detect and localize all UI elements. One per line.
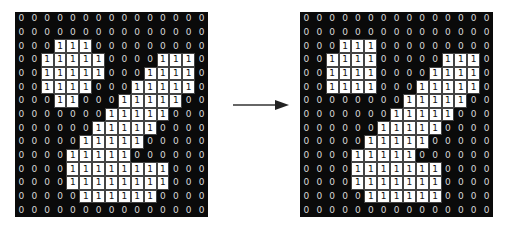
grid-cell: 0 (416, 12, 429, 26)
grid-cell: 0 (182, 108, 195, 122)
grid-cell: 0 (28, 121, 41, 135)
grid-cell: 0 (351, 121, 364, 135)
grid-cell: 0 (54, 12, 67, 26)
grid-cell: 0 (467, 12, 480, 26)
grid-cell: 0 (377, 39, 390, 53)
grid-cell: 1 (66, 39, 79, 53)
grid-cell: 0 (429, 149, 442, 163)
grid-cell: 0 (105, 203, 118, 217)
grid-cell: 0 (326, 108, 339, 122)
grid-cell: 1 (364, 67, 377, 81)
grid-cell: 1 (429, 94, 442, 108)
grid-cell: 0 (442, 190, 455, 204)
grid-cell: 0 (28, 80, 41, 94)
grid-cell: 0 (28, 149, 41, 163)
grid-cell: 1 (416, 94, 429, 108)
grid-cell: 0 (15, 149, 28, 163)
grid-cell: 0 (15, 12, 28, 26)
grid-cell: 0 (92, 80, 105, 94)
grid-cell: 0 (326, 39, 339, 53)
grid-cell: 0 (300, 176, 313, 190)
grid-cell: 0 (195, 190, 208, 204)
grid-cell: 1 (131, 190, 144, 204)
grid-cell: 0 (66, 26, 79, 40)
grid-cell: 0 (454, 203, 467, 217)
grid-cell: 1 (403, 162, 416, 176)
grid-cell: 0 (300, 67, 313, 81)
grid-cell: 1 (169, 67, 182, 81)
grid-cell: 0 (15, 26, 28, 40)
grid-cell: 0 (467, 39, 480, 53)
grid-cell: 0 (66, 108, 79, 122)
grid-cell: 0 (480, 26, 493, 40)
grid-cell: 0 (118, 203, 131, 217)
grid-cell: 1 (364, 190, 377, 204)
grid-cell: 0 (144, 149, 157, 163)
grid-cell: 1 (54, 67, 67, 81)
grid-cell: 0 (480, 53, 493, 67)
grid-cell: 0 (169, 12, 182, 26)
grid-cell: 0 (442, 176, 455, 190)
grid-cell: 0 (467, 108, 480, 122)
grid-cell: 0 (195, 162, 208, 176)
grid-cell: 1 (416, 162, 429, 176)
grid-cell: 1 (144, 80, 157, 94)
grid-cell: 0 (144, 53, 157, 67)
grid-cell: 0 (131, 203, 144, 217)
grid-cell: 0 (326, 176, 339, 190)
grid-cell: 1 (66, 176, 79, 190)
grid-cell: 1 (351, 80, 364, 94)
grid-cell: 1 (92, 121, 105, 135)
grid-cell: 0 (28, 39, 41, 53)
grid-cell: 0 (364, 12, 377, 26)
grid-cell: 1 (131, 108, 144, 122)
grid-cell: 0 (339, 176, 352, 190)
grid-cell: 0 (28, 53, 41, 67)
grid-cell: 0 (131, 149, 144, 163)
grid-cell: 0 (15, 94, 28, 108)
grid-cell: 0 (313, 121, 326, 135)
grid-cell: 1 (364, 135, 377, 149)
grid-cell: 0 (15, 203, 28, 217)
grid-cell: 1 (131, 80, 144, 94)
grid-cell: 0 (41, 176, 54, 190)
grid-cell: 0 (313, 53, 326, 67)
grid-cell: 0 (105, 94, 118, 108)
grid-cell: 0 (157, 39, 170, 53)
grid-cell: 1 (105, 149, 118, 163)
grid-cell: 0 (313, 190, 326, 204)
grid-cell: 1 (118, 121, 131, 135)
grid-cell: 1 (339, 80, 352, 94)
grid-cell: 0 (377, 94, 390, 108)
grid-cell: 0 (339, 108, 352, 122)
grid-cell: 0 (169, 108, 182, 122)
grid-cell: 0 (118, 12, 131, 26)
grid-cell: 1 (169, 53, 182, 67)
grid-cell: 0 (182, 162, 195, 176)
grid-cell: 1 (79, 149, 92, 163)
grid-cell: 0 (429, 53, 442, 67)
grid-cell: 0 (403, 53, 416, 67)
grid-cell: 1 (79, 53, 92, 67)
grid-cell: 0 (54, 121, 67, 135)
grid-cell: 0 (195, 80, 208, 94)
grid-cell: 1 (92, 135, 105, 149)
grid-cell: 1 (326, 67, 339, 81)
grid-cell: 1 (66, 94, 79, 108)
grid-cell: 1 (454, 80, 467, 94)
grid-cell: 0 (169, 121, 182, 135)
grid-cell: 0 (15, 121, 28, 135)
grid-cell: 0 (157, 121, 170, 135)
grid-cell: 1 (182, 67, 195, 81)
grid-cell: 0 (300, 203, 313, 217)
grid-cell: 0 (169, 203, 182, 217)
grid-cell: 0 (364, 26, 377, 40)
grid-cell: 0 (105, 12, 118, 26)
grid-cell: 0 (454, 190, 467, 204)
grid-cell: 0 (92, 39, 105, 53)
grid-cell: 1 (66, 67, 79, 81)
grid-cell: 1 (429, 121, 442, 135)
grid-cell: 0 (300, 39, 313, 53)
grid-cell: 0 (54, 108, 67, 122)
grid-cell: 1 (92, 53, 105, 67)
